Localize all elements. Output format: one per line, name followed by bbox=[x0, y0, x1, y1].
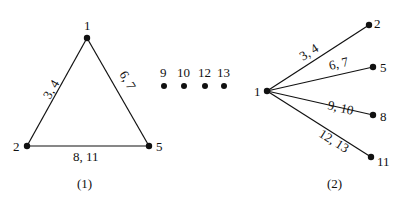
center-node-label: 1 bbox=[254, 84, 261, 99]
leaf-node-8 bbox=[370, 112, 376, 118]
node-9 bbox=[161, 83, 167, 89]
edge-1-8-label: 9, 10 bbox=[326, 97, 355, 117]
leaf-node-2 bbox=[366, 22, 372, 28]
leaf-node-11 bbox=[368, 154, 374, 160]
edge-2-5-label: 8, 11 bbox=[73, 149, 99, 164]
diagram-canvas: 1 2 5 3, 4 6, 7 8, 11 (1) 9 10 12 13 1 2… bbox=[0, 0, 405, 205]
edge-1-5 bbox=[267, 67, 373, 91]
edge-1-2-label: 3, 4 bbox=[40, 77, 63, 102]
edge-1-11-label: 12, 13 bbox=[316, 126, 352, 156]
graph-2: 1 2 5 8 11 3, 4 6, 7 9, 10 12, 13 (2) bbox=[254, 16, 390, 191]
node-2-label: 2 bbox=[13, 139, 20, 154]
node-12-label: 12 bbox=[198, 65, 211, 80]
node-5 bbox=[146, 143, 152, 149]
leaf-2-label: 2 bbox=[374, 16, 381, 31]
node-12 bbox=[202, 83, 208, 89]
node-13 bbox=[221, 83, 227, 89]
leaf-11-label: 11 bbox=[377, 154, 390, 169]
node-10-label: 10 bbox=[177, 65, 190, 80]
node-5-label: 5 bbox=[156, 139, 163, 154]
edge-1-11 bbox=[267, 91, 371, 157]
leaf-5-label: 5 bbox=[380, 60, 387, 75]
center-node-1 bbox=[264, 88, 270, 94]
edge-1-2-label: 3, 4 bbox=[296, 40, 321, 63]
graph-2-caption: (2) bbox=[327, 176, 342, 191]
edge-1-5 bbox=[87, 38, 149, 146]
edge-1-8 bbox=[267, 91, 373, 115]
edge-1-5-label: 6, 7 bbox=[116, 68, 139, 93]
edge-1-2 bbox=[267, 25, 369, 91]
leaf-8-label: 8 bbox=[380, 109, 387, 124]
node-9-label: 9 bbox=[160, 65, 167, 80]
node-10 bbox=[181, 83, 187, 89]
node-13-label: 13 bbox=[217, 65, 230, 80]
node-1-label: 1 bbox=[84, 18, 91, 33]
node-1 bbox=[84, 35, 90, 41]
node-2 bbox=[24, 143, 30, 149]
leaf-node-5 bbox=[370, 64, 376, 70]
edge-1-5-label: 6, 7 bbox=[327, 54, 350, 73]
isolated-nodes: 9 10 12 13 bbox=[160, 65, 230, 89]
graph-1-caption: (1) bbox=[77, 176, 92, 191]
graph-1: 1 2 5 3, 4 6, 7 8, 11 (1) bbox=[13, 18, 163, 191]
